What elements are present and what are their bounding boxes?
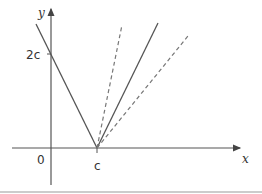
dashed-line-steep <box>97 25 122 148</box>
solid-line-right <box>97 23 158 148</box>
dashed-line-shallow <box>97 36 188 148</box>
x-axis-label: x <box>242 152 249 166</box>
y-axis-label: y <box>37 6 45 20</box>
y-tick-label: 2c <box>26 48 40 62</box>
x-tick-label: c <box>94 159 101 173</box>
graph-diagram: y x 0 2c c <box>0 0 262 194</box>
solid-line-left <box>36 24 97 148</box>
origin-label: 0 <box>37 153 45 167</box>
